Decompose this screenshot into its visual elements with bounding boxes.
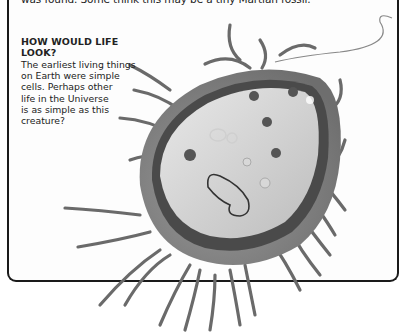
caption-line: is as simple as this bbox=[21, 104, 109, 115]
caption-heading: HOW WOULD LIFE LOOK? bbox=[21, 36, 151, 58]
caption-line: creature? bbox=[21, 115, 65, 126]
cell-body bbox=[140, 69, 341, 265]
caption-body: The earliest living things on Earth were… bbox=[21, 59, 151, 126]
caption-line: life in the Universe bbox=[21, 93, 109, 104]
sidebar-caption: HOW WOULD LIFE LOOK? The earliest living… bbox=[21, 36, 151, 126]
caption-line: The earliest living things bbox=[21, 59, 136, 70]
caption-line: cells. Perhaps other bbox=[21, 81, 112, 92]
caption-line: on Earth were simple bbox=[21, 70, 120, 81]
